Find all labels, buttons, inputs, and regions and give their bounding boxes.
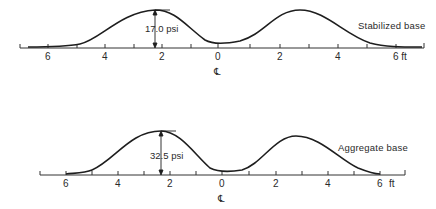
pressure-curve — [66, 131, 380, 174]
aggregate-base-diagram: 32.5 psi 6 4 2 0 2 4 6 ft ℄ Aggregate ba… — [40, 131, 408, 204]
stabilized-base-diagram: 17.0 psi 6 4 2 0 2 4 6 ft ℄ Stabilized b… — [20, 10, 425, 77]
tick-label: 6 — [63, 178, 69, 189]
tick-label: 0 — [219, 178, 225, 189]
tick-label: 6 — [377, 178, 383, 189]
tick-label: 4 — [102, 51, 108, 62]
tick-label: 6 ft — [393, 51, 407, 62]
peak-pressure-label: 17.0 psi — [145, 23, 178, 34]
centerline-symbol: ℄ — [217, 193, 225, 204]
tick-label: 6 — [45, 51, 51, 62]
diagram-caption: Stabilized base — [358, 20, 425, 31]
tick-label: 4 — [335, 51, 341, 62]
tick-label: 2 — [277, 51, 283, 62]
pressure-distribution-figure: 17.0 psi 6 4 2 0 2 4 6 ft ℄ Stabilized b… — [0, 0, 436, 209]
tick-label: 4 — [325, 178, 331, 189]
tick-label: 4 — [115, 178, 121, 189]
tick-label: 2 — [273, 178, 279, 189]
peak-pressure-label: 32.5 psi — [150, 150, 183, 161]
tick-label: 2 — [159, 51, 165, 62]
tick-label: 0 — [215, 51, 221, 62]
tick-label: 2 — [167, 178, 173, 189]
unit-label: ft — [389, 178, 395, 189]
centerline-symbol: ℄ — [213, 66, 221, 77]
diagram-caption: Aggregate base — [338, 142, 408, 153]
